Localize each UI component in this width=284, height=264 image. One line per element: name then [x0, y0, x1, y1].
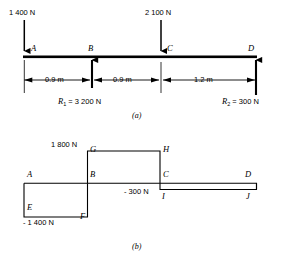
- shear-block-BC-positive: [88, 151, 161, 183]
- reaction-value-R2: = 300 N: [232, 97, 258, 106]
- shear-value-label-GH: 1 800 N: [51, 141, 77, 149]
- reaction-subscript-R1: 1: [63, 101, 66, 107]
- point-label-a-C: C: [167, 44, 173, 53]
- figure-caption-a: (a): [132, 112, 141, 120]
- reaction-label-R2: R2 = 300 N: [222, 97, 259, 106]
- beam-member: [23, 56, 257, 59]
- point-label-b-J: J: [246, 192, 250, 201]
- load-label-A: 1 400 N: [9, 9, 35, 17]
- point-label-b-G: G: [90, 145, 96, 154]
- shear-value-label-IJ: - 300 N: [124, 188, 149, 196]
- point-label-a-A: A: [31, 44, 36, 53]
- shear-diagram-b: [24, 151, 257, 217]
- load-label-C: 2 100 N: [145, 9, 171, 17]
- figure-container: 1 400 N 2 100 N A B C D 0.9 m 0.9 m 1.2 …: [0, 0, 284, 264]
- dimension-label-AB: 0.9 m: [45, 76, 64, 84]
- dimension-label-BC: 0.9 m: [113, 76, 132, 84]
- dimension-label-CD: 1.2 m: [194, 76, 213, 84]
- shear-block-AB-negative: [24, 183, 88, 217]
- reaction-subscript-R2: 2: [227, 101, 230, 107]
- point-label-a-D: D: [248, 44, 254, 53]
- point-label-b-C: C: [163, 170, 169, 179]
- shear-value-label-EF: - 1 400 N: [23, 219, 54, 227]
- shear-block-CD-negative: [160, 183, 257, 189]
- point-label-b-D: D: [245, 170, 251, 179]
- point-label-b-A: A: [27, 170, 32, 179]
- reaction-label-R1: R1 = 3 200 N: [58, 97, 101, 106]
- reaction-value-R1: = 3 200 N: [68, 97, 101, 106]
- point-label-b-F: F: [80, 212, 85, 221]
- figure-caption-b: (b): [132, 243, 141, 251]
- point-label-b-B: B: [90, 170, 95, 179]
- point-label-b-E: E: [27, 203, 32, 212]
- point-label-b-H: H: [163, 145, 169, 154]
- point-label-a-B: B: [88, 44, 93, 53]
- point-label-b-I: I: [162, 192, 165, 201]
